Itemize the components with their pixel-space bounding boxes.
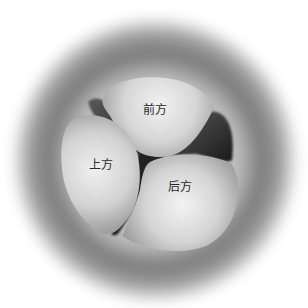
label-superior: 上方 bbox=[89, 155, 113, 172]
valve-illustration bbox=[0, 0, 308, 308]
label-anterior: 前方 bbox=[143, 100, 167, 117]
valve-diagram: 前方 上方 后方 bbox=[0, 0, 308, 308]
label-posterior: 后方 bbox=[168, 177, 192, 194]
